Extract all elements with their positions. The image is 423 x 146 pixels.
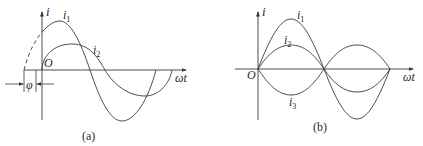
panel-a-label-i1: i1 [63, 8, 70, 24]
panel-b: i O ωt i1 i2 i3 (b) [235, 4, 415, 134]
panel-a-label-i2: i2 [93, 43, 100, 59]
panel-b-x-label: ωt [403, 70, 415, 84]
panel-a-curve-i1-dashed [24, 32, 42, 70]
panel-b-caption: (b) [313, 120, 327, 134]
panel-b-label-i1: i1 [297, 8, 304, 24]
panel-a-curve-i1 [42, 21, 156, 121]
panel-b-label-i2: i2 [284, 33, 291, 49]
panel-a-origin-label: O [44, 56, 53, 70]
panel-a-phase-label: φ [26, 78, 33, 92]
panel-a-y-label: i [46, 4, 50, 19]
panel-b-origin-label: O [247, 68, 256, 82]
panel-a-caption: (a) [82, 129, 95, 143]
panel-a: i O ωt φ i1 i2 (a) [5, 4, 187, 143]
panel-b-y-label: i [262, 4, 266, 19]
panel-b-label-i3: i3 [289, 95, 296, 111]
panel-a-x-label: ωt [175, 71, 187, 85]
sinusoid-diagram: i O ωt φ i1 i2 (a) i O ωt i1 i2 i3 (b) [0, 0, 423, 146]
